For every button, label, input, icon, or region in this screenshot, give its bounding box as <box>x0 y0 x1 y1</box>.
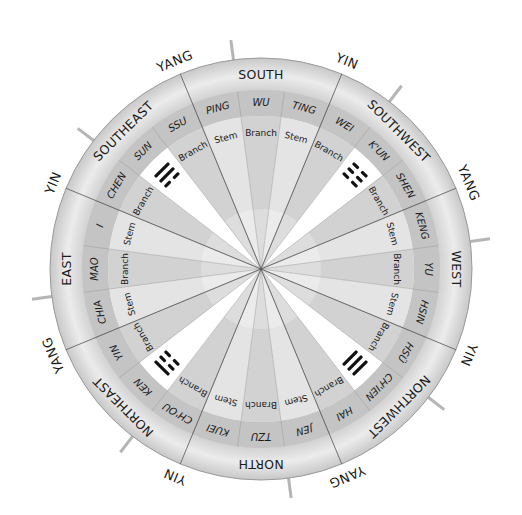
direction-label: EAST <box>59 252 74 285</box>
compass-diagram: SOUTHSOUTHWESTWESTNORTHWESTNORTHNORTHEAS… <box>0 0 522 515</box>
sector-name-label: YU <box>423 262 434 276</box>
yin-label: YIN <box>333 49 361 72</box>
yin-label: YIN <box>458 341 481 369</box>
yin-label: YIN <box>41 169 64 197</box>
branch-label: Branch <box>245 128 277 138</box>
direction-label: WEST <box>449 250 464 287</box>
branch-label: Branch <box>245 400 277 410</box>
tick-mark <box>468 239 490 242</box>
tick-mark <box>231 40 234 62</box>
compass-wheel: SOUTHSOUTHWESTWESTNORTHWESTNORTHNORTHEAS… <box>0 0 522 515</box>
direction-label: NORTH <box>238 457 284 472</box>
sector-name-label: MAO <box>89 257 100 280</box>
tick-mark <box>120 435 133 452</box>
tick-mark <box>78 128 95 141</box>
yin-label: YIN <box>161 466 189 489</box>
branch-label: Branch <box>392 253 402 285</box>
tick-mark <box>32 296 54 299</box>
direction-label: SOUTH <box>238 67 283 82</box>
sector-name-label: TZU <box>250 431 271 442</box>
sector-name-label: WU <box>252 97 270 108</box>
tick-mark <box>388 86 401 103</box>
branch-label: Branch <box>120 253 130 285</box>
tick-mark <box>427 396 444 409</box>
tick-mark <box>288 476 291 498</box>
